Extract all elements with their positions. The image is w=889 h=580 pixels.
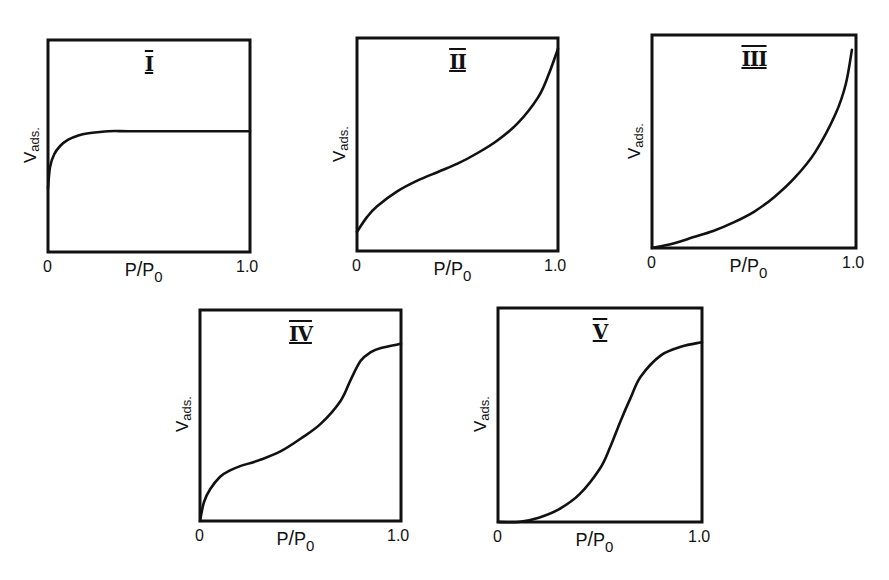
y-axis-label: Vads. [21, 127, 42, 163]
y-axis-label-subscript: ads. [179, 396, 194, 421]
x-axis-label-subscript: 0 [306, 537, 314, 554]
isotherm-panel-v: VVads.01.0P/P0 [498, 308, 702, 522]
panel-numeral: II [428, 50, 488, 74]
isotherm-panel-iii: IIIVads.01.0P/P0 [652, 35, 856, 248]
x-axis-label-p0-base: P [593, 530, 605, 550]
panel-numeral: IV [271, 322, 331, 346]
isotherm-curve [498, 342, 702, 522]
x-tick-min: 0 [195, 527, 204, 545]
x-axis-label-p: P [730, 256, 742, 276]
x-axis-label-p: P [125, 260, 137, 280]
y-axis-label-main: V [625, 147, 644, 158]
x-axis-label-subscript: 0 [463, 267, 471, 284]
isotherm-curve [200, 344, 401, 521]
x-axis-label: P/P0 [730, 254, 768, 281]
x-tick-min: 0 [43, 258, 52, 276]
y-axis-label-main: V [330, 150, 349, 161]
x-axis-label-p0-base: P [747, 256, 759, 276]
y-axis-label: Vads. [330, 126, 351, 162]
x-tick-max: 1.0 [387, 527, 409, 545]
x-tick-min: 0 [352, 257, 361, 275]
x-tick-max: 1.0 [236, 258, 258, 276]
x-axis-label: P/P0 [433, 257, 471, 284]
y-axis-label: Vads. [471, 396, 492, 432]
isotherm-curve [48, 131, 250, 188]
x-axis-label-p: P [276, 529, 288, 549]
x-axis-label-p0-base: P [294, 529, 306, 549]
x-axis-label: P/P0 [576, 528, 614, 555]
y-axis-label: Vads. [625, 123, 646, 159]
y-axis-label-main: V [21, 152, 40, 163]
y-axis-label-subscript: ads. [27, 127, 42, 152]
x-axis-label: P/P0 [125, 258, 163, 285]
isotherm-curve [357, 49, 558, 232]
isotherm-panel-iv: IVVads.01.0P/P0 [200, 310, 401, 521]
x-axis-label-p0-base: P [142, 260, 154, 280]
y-axis-label-subscript: ads. [631, 123, 646, 148]
y-axis-label-main: V [471, 421, 490, 432]
x-tick-min: 0 [647, 254, 656, 272]
panel-numeral: I [119, 52, 179, 76]
x-axis-label: P/P0 [276, 527, 314, 554]
y-axis-label: Vads. [173, 396, 194, 432]
y-axis-label-subscript: ads. [336, 126, 351, 151]
y-axis-label-main: V [173, 421, 192, 432]
x-axis-label-p0-base: P [451, 259, 463, 279]
isotherm-panel-ii: IIVads.01.0P/P0 [357, 38, 558, 251]
x-axis-label-subscript: 0 [154, 268, 162, 285]
isotherm-panel-i: IVads.01.0P/P0 [48, 40, 250, 252]
x-axis-label-p: P [576, 530, 588, 550]
panel-numeral: III [724, 47, 784, 71]
x-tick-max: 1.0 [688, 528, 710, 546]
y-axis-label-subscript: ads. [477, 396, 492, 421]
x-axis-label-subscript: 0 [605, 538, 613, 555]
x-tick-max: 1.0 [842, 254, 864, 272]
panel-numeral: V [570, 320, 630, 344]
isotherm-curve [652, 50, 852, 248]
x-tick-max: 1.0 [544, 257, 566, 275]
x-axis-label-subscript: 0 [759, 264, 767, 281]
x-axis-label-p: P [433, 259, 445, 279]
x-tick-min: 0 [493, 528, 502, 546]
